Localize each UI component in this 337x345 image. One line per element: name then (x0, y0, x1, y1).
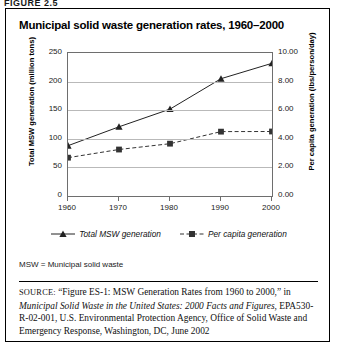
y-axis-left-ticks: 050100150200250 (28, 47, 62, 197)
chart-plot: Total MSW generation (million tons) Per … (6, 47, 331, 237)
source-label: SOURCE: (19, 288, 56, 297)
y-axis-right-tick-label: 10.00 (278, 47, 312, 56)
data-point-marker (115, 123, 122, 130)
x-axis-tick-label: 1960 (58, 203, 76, 212)
legend-triangle-icon (50, 229, 76, 239)
x-axis-tick-label: 1990 (211, 203, 229, 212)
y-axis-right-tick-label: 8.00 (278, 76, 312, 85)
legend-label: Per capita generation (208, 229, 287, 239)
y-axis-left-tick-label: 150 (28, 104, 62, 113)
data-point-marker (268, 60, 272, 67)
x-axis-tick (118, 197, 119, 201)
chart-legend: Total MSW generationPer capita generatio… (6, 229, 331, 239)
y-axis-right-tick-label: 2.00 (278, 161, 312, 170)
gridline (68, 110, 272, 111)
y-axis-right-tick-label: 0.00 (278, 190, 312, 199)
legend-item-2[interactable]: Per capita generation (179, 229, 287, 239)
plot-area (67, 52, 273, 197)
y-axis-right-tick-label: 6.00 (278, 104, 312, 113)
source-publication-title: Municipal Solid Waste in the United Stat… (19, 301, 277, 311)
data-point-marker (116, 147, 122, 153)
source-text-part1: “Figure ES-1: MSW Generation Rates from … (56, 287, 291, 297)
y-axis-right-tick-label: 4.00 (278, 133, 312, 142)
x-axis-tick-label: 2000 (262, 203, 280, 212)
gridline (68, 82, 272, 83)
legend-item-1[interactable]: Total MSW generation (50, 229, 161, 239)
data-point-marker (269, 129, 272, 135)
abbreviation-note: MSW = Municipal solid waste (19, 260, 123, 269)
legend-label: Total MSW generation (79, 229, 161, 239)
data-point-marker (218, 129, 224, 135)
legend-square-icon (179, 229, 205, 239)
data-point-marker (167, 141, 173, 147)
data-point-marker (68, 155, 71, 161)
x-axis-tick (169, 197, 170, 201)
source-note: SOURCE: “Figure ES-1: MSW Generation Rat… (19, 286, 320, 337)
gridline (68, 167, 272, 168)
y-axis-left-tick-label: 200 (28, 76, 62, 85)
y-axis-left-tick-label: 250 (28, 47, 62, 56)
figure-box: Municipal solid waste generation rates, … (5, 8, 330, 342)
x-axis-tick (67, 197, 68, 201)
x-axis-tick-label: 1970 (109, 203, 127, 212)
x-axis-tick-label: 1980 (160, 203, 178, 212)
x-axis-tick (220, 197, 221, 201)
x-axis-ticks: 19601970198019902000 (67, 197, 273, 203)
series-line-1 (68, 63, 272, 145)
series-canvas (68, 53, 272, 196)
y-axis-left-tick-label: 0 (28, 190, 62, 199)
source-divider (19, 281, 318, 282)
gridline (68, 139, 272, 140)
y-axis-left-tick-label: 50 (28, 161, 62, 170)
y-axis-left-tick-label: 100 (28, 133, 62, 142)
chart-title: Municipal solid waste generation rates, … (19, 19, 319, 31)
y-axis-right-ticks: 0.002.004.006.008.0010.00 (278, 47, 312, 197)
figure-number: FIGURE 2.5 (4, 0, 58, 8)
x-axis-tick (271, 197, 272, 201)
